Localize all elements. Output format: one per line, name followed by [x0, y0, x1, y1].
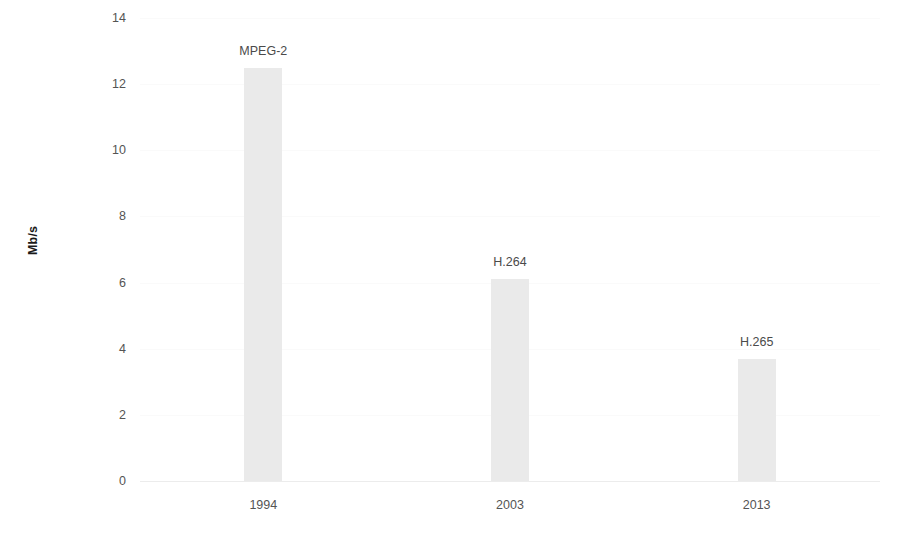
plot-area: 02468101214 MPEG-2H.264H.265 19942003201…	[140, 18, 880, 481]
x-axis-tick-label: 1994	[203, 498, 323, 512]
y-axis-tick-label: 2	[86, 408, 126, 422]
x-axis-tick-label: 2013	[697, 498, 817, 512]
axis-baseline	[140, 481, 880, 482]
y-axis-title: Mb/s	[26, 235, 40, 255]
x-axis-tick-label: 2003	[450, 498, 570, 512]
gridline	[140, 18, 880, 19]
bar[interactable]: MPEG-2	[244, 68, 282, 481]
y-axis-tick-label: 14	[86, 11, 126, 25]
bar[interactable]: H.265	[738, 359, 776, 481]
bar[interactable]: H.264	[491, 279, 529, 481]
y-axis-tick-label: 0	[86, 474, 126, 488]
y-axis-tick-label: 6	[86, 276, 126, 290]
bar-label: H.264	[493, 255, 526, 269]
y-axis-tick-label: 12	[86, 77, 126, 91]
bar-chart: Mb/s 02468101214 MPEG-2H.264H.265 199420…	[0, 0, 910, 548]
bar-label: MPEG-2	[239, 44, 287, 58]
y-axis-tick-label: 4	[86, 342, 126, 356]
bar-label: H.265	[740, 335, 773, 349]
y-axis-tick-label: 10	[86, 143, 126, 157]
y-axis-tick-label: 8	[86, 209, 126, 223]
